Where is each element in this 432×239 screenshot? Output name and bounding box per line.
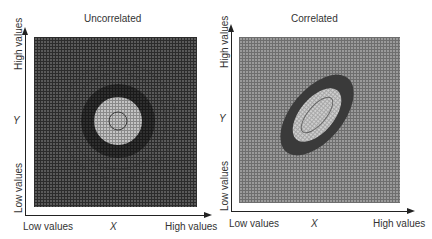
correlated-panel: Correlated <box>216 0 432 239</box>
x-axis-label: X <box>110 221 117 232</box>
x-axis-arrow-icon <box>204 212 212 218</box>
x-axis-low-label: Low values <box>23 221 73 232</box>
x-axis-low-label: Low values <box>229 218 279 229</box>
x-axis <box>231 211 408 212</box>
x-axis-high-label: High values <box>373 218 425 229</box>
y-axis-high-label: High values <box>219 16 230 68</box>
correlated-density-plot <box>239 37 400 203</box>
x-axis <box>25 215 205 216</box>
uncorrelated-density-plot <box>34 37 197 207</box>
x-axis-label: X <box>311 218 318 229</box>
x-axis-high-label: High values <box>165 221 217 232</box>
y-axis-label: Y <box>219 113 226 124</box>
y-axis-low-label: Low values <box>219 161 230 211</box>
y-axis-label: Y <box>13 115 20 126</box>
uncorrelated-panel: Uncorrelated <box>0 0 216 239</box>
y-axis-low-label: Low values <box>13 163 24 213</box>
y-axis-high-label: High values <box>13 18 24 70</box>
panel-title: Uncorrelated <box>84 13 141 24</box>
panel-title: Correlated <box>291 13 338 24</box>
y-axis <box>231 30 232 211</box>
x-axis-arrow-icon <box>407 208 415 214</box>
y-axis <box>25 33 26 215</box>
